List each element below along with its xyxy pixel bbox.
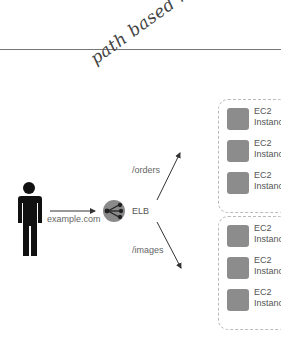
ec2-icon xyxy=(227,225,249,247)
route-label-images: /images xyxy=(132,245,164,255)
ec2-icon xyxy=(227,172,249,194)
ec2-icon xyxy=(227,289,249,311)
route-label-orders: /orders xyxy=(132,165,160,175)
target-group-orders: EC2Instance EC2Instance EC2Instance xyxy=(218,99,281,213)
elb-label: ELB xyxy=(132,206,149,216)
ec2-instance: EC2Instance xyxy=(227,106,281,132)
ec2-icon xyxy=(227,140,249,162)
ec2-instance: EC2Instance xyxy=(227,255,281,281)
ec2-instance: EC2Instance xyxy=(227,170,281,196)
ec2-instance: EC2Instance xyxy=(227,223,281,249)
ec2-instance: EC2Instance xyxy=(227,287,281,313)
ec2-icon xyxy=(227,257,249,279)
ec2-icon xyxy=(227,108,249,130)
target-group-images: EC2Instance EC2Instance EC2Instance xyxy=(218,216,281,330)
ec2-instance: EC2Instance xyxy=(227,138,281,164)
